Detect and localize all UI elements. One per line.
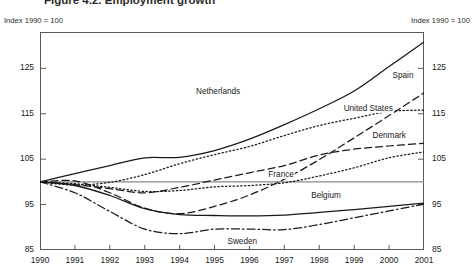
chart-canvas	[40, 32, 424, 250]
figure-title: Figure 4.2. Employment growth	[44, 0, 215, 7]
series-label-sweden: Sweden	[226, 237, 258, 246]
plot-area: 8585959510510511511512512519901991199219…	[40, 32, 424, 250]
y-axis-tick-left: 115	[8, 108, 34, 118]
y-axis-tick-right: 105	[432, 153, 458, 163]
y-axis-tick-right: 95	[432, 199, 458, 209]
left-axis-note: Index 1990 = 100	[4, 16, 63, 25]
x-axis-tick: 2000	[371, 255, 407, 265]
x-axis-tick: 1994	[162, 255, 198, 265]
series-label-denmark: Denmark	[372, 131, 407, 140]
y-axis-tick-left: 105	[8, 153, 34, 163]
series-label-netherlands: Netherlands	[195, 87, 241, 96]
y-axis-tick-left: 85	[8, 244, 34, 254]
series-label-france: France	[267, 170, 294, 179]
x-axis-tick: 1993	[127, 255, 163, 265]
x-axis-tick: 1997	[266, 255, 302, 265]
y-axis-tick-left: 125	[8, 62, 34, 72]
x-axis-tick: 1998	[301, 255, 337, 265]
x-axis-tick: 2001	[406, 255, 442, 265]
x-axis-tick: 1996	[231, 255, 267, 265]
x-axis-tick: 1999	[336, 255, 372, 265]
series-label-united-states: United States	[343, 104, 394, 113]
right-axis-note: Index 1990 = 100	[411, 16, 470, 25]
series-line-sweden	[40, 182, 424, 234]
series-label-spain: Spain	[392, 71, 415, 80]
series-label-belgium: Belgium	[310, 191, 342, 200]
y-axis-tick-right: 115	[432, 108, 458, 118]
x-axis-tick: 1990	[22, 255, 58, 265]
x-axis-tick: 1992	[92, 255, 128, 265]
y-axis-tick-right: 125	[432, 62, 458, 72]
y-axis-tick-left: 95	[8, 199, 34, 209]
x-axis-tick: 1991	[57, 255, 93, 265]
y-axis-tick-right: 85	[432, 244, 458, 254]
series-line-france	[40, 152, 424, 192]
x-axis-tick: 1995	[197, 255, 233, 265]
